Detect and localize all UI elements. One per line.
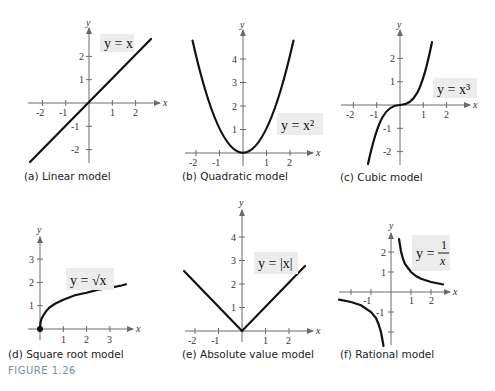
caption-quadratic: (b) Quadratic model <box>182 170 288 182</box>
caption-square-root: (d) Square root model <box>8 348 124 360</box>
caption-absolute-value: (e) Absolute value model <box>182 348 314 360</box>
svg-text:2: 2 <box>286 335 291 346</box>
svg-text:-2: -2 <box>36 107 44 118</box>
svg-text:-2: -2 <box>189 157 197 168</box>
svg-text:x: x <box>135 323 141 334</box>
curve-linear <box>30 39 151 162</box>
svg-text:1: 1 <box>390 76 395 87</box>
equation-absolute-value: y = |x| <box>258 256 293 271</box>
svg-text:-2: -2 <box>346 109 354 120</box>
svg-text:-1: -1 <box>212 157 220 168</box>
svg-text:y: y <box>396 19 402 30</box>
panel-square-root: 1 2 3 1 2 3 x y y = √x (d) Square root m… <box>8 224 141 376</box>
equation-quadratic: y = x² <box>281 118 314 133</box>
svg-text:3: 3 <box>107 334 112 345</box>
svg-text:-1: -1 <box>376 307 384 318</box>
svg-text:1: 1 <box>110 107 115 118</box>
svg-text:1: 1 <box>264 157 269 168</box>
caption-cubic: (c) Cubic model <box>340 171 423 183</box>
svg-text:y: y <box>238 197 244 208</box>
panel-cubic: -2 -1 1 2 -2 -1 1 2 x y y = x³ (c) Cubic… <box>340 19 478 183</box>
svg-text:x: x <box>452 286 458 297</box>
svg-text:1: 1 <box>421 109 426 120</box>
svg-text:x: x <box>315 147 321 158</box>
x-axis-label: x <box>162 97 168 108</box>
y-ticks: 1 2 3 4 <box>231 232 245 313</box>
svg-text:4: 4 <box>231 232 236 243</box>
svg-text:1: 1 <box>232 124 237 135</box>
svg-text:x: x <box>439 254 446 268</box>
y-axis-label: y <box>85 17 91 28</box>
curve-square-root <box>40 284 126 329</box>
caption-linear: (a) Linear model <box>24 170 111 182</box>
svg-text:3: 3 <box>231 255 236 266</box>
svg-text:2: 2 <box>287 157 292 168</box>
svg-text:3: 3 <box>29 254 34 265</box>
panel-linear: -2 -1 1 2 -2 -1 1 2 x y y = x (a) Linear… <box>24 17 168 182</box>
svg-text:4: 4 <box>232 54 237 65</box>
svg-text:x: x <box>315 325 321 336</box>
equation-cubic: y = x³ <box>437 82 470 97</box>
svg-text:2: 2 <box>29 277 34 288</box>
equation-linear: y = x <box>104 36 133 51</box>
svg-text:1: 1 <box>29 300 34 311</box>
caption-rational: (f) Rational model <box>340 348 434 360</box>
svg-text:2: 2 <box>390 53 395 64</box>
panel-rational: -1 1 2 -1 1 2 x y y = 1 x y = 1/x (f) Ra… <box>339 220 458 360</box>
svg-text:-1: -1 <box>370 109 378 120</box>
svg-text:-1: -1 <box>383 123 391 134</box>
svg-text:2: 2 <box>133 107 138 118</box>
figure-label: FIGURE 1.26 <box>8 365 76 376</box>
equation-rational-lhs: y = <box>416 246 435 261</box>
svg-text:2: 2 <box>232 101 237 112</box>
svg-text:1: 1 <box>231 302 236 313</box>
equation-square-root: y = √x <box>70 273 107 288</box>
origin-point <box>37 326 43 332</box>
svg-text:1: 1 <box>381 267 386 278</box>
svg-text:y: y <box>239 19 245 30</box>
svg-text:2: 2 <box>381 247 386 258</box>
curve-absolute-value <box>184 266 305 331</box>
panel-quadratic: -2 -1 1 2 1 2 3 4 x y y = x² (b) Quadrat… <box>182 19 323 182</box>
svg-text:-1: -1 <box>71 121 79 132</box>
svg-text:2: 2 <box>84 334 89 345</box>
svg-text:2: 2 <box>79 51 84 62</box>
svg-text:2: 2 <box>231 279 236 290</box>
svg-text:3: 3 <box>232 77 237 88</box>
panel-absolute-value: -2 -1 1 2 1 2 3 4 x y y = |x| (e) Absolu… <box>182 197 321 360</box>
svg-text:y: y <box>388 220 394 231</box>
svg-text:1: 1 <box>79 74 84 85</box>
y-ticks: 1 2 3 <box>29 254 43 311</box>
svg-text:-2: -2 <box>383 146 391 157</box>
svg-text:1: 1 <box>441 238 447 252</box>
svg-text:-1: -1 <box>363 295 371 306</box>
svg-text:x: x <box>472 99 478 110</box>
svg-text:-1: -1 <box>59 107 67 118</box>
figure-canvas: -2 -1 1 2 -2 -1 1 2 x y y = x (a) Linear… <box>0 0 495 391</box>
svg-text:2: 2 <box>444 109 449 120</box>
svg-text:-1: -1 <box>211 335 219 346</box>
svg-text:1: 1 <box>263 335 268 346</box>
y-ticks: 1 2 3 4 <box>232 54 246 135</box>
svg-text:y: y <box>36 224 42 235</box>
svg-text:-2: -2 <box>71 144 79 155</box>
svg-text:1: 1 <box>409 295 414 306</box>
svg-text:2: 2 <box>429 295 434 306</box>
svg-text:-2: -2 <box>188 335 196 346</box>
svg-text:1: 1 <box>61 334 66 345</box>
